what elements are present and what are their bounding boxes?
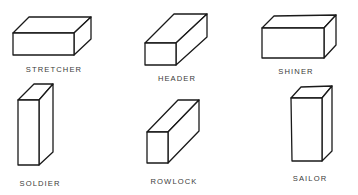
brick-header: HEADER (145, 14, 207, 83)
sailor-side-face (322, 86, 332, 161)
sailor-label: SAILOR (293, 174, 327, 183)
shiner-label: SHINER (278, 67, 313, 76)
shiner-front-face (262, 28, 324, 58)
shiner-top-face (262, 15, 336, 28)
rowlock-label: ROWLOCK (151, 177, 198, 186)
brick-sailor: SAILOR (291, 86, 332, 183)
soldier-front-face (18, 100, 39, 165)
brick-rowlock: ROWLOCK (147, 100, 199, 186)
rowlock-front-face (147, 132, 168, 163)
brick-stretcher: STRETCHER (13, 17, 91, 74)
brick-soldier: SOLDIER (18, 84, 61, 188)
stretcher-front-face (13, 33, 74, 55)
soldier-label: SOLDIER (19, 179, 60, 188)
brick-positions-diagram: STRETCHER HEADER SHINER SOLDIER ROWLOCK … (0, 0, 358, 195)
stretcher-label: STRETCHER (26, 65, 82, 74)
sailor-front-face (291, 98, 322, 161)
brick-shiner: SHINER (262, 15, 336, 76)
header-front-face (145, 43, 176, 65)
header-label: HEADER (158, 74, 196, 83)
